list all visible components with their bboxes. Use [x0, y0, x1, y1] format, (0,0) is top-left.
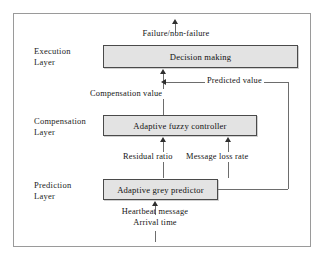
edge-label-residual-ratio: Residual ratio: [121, 152, 175, 162]
edge-label-compensation-value: Compensation value: [88, 89, 164, 99]
layer-label-compensation: Compensation Layer: [34, 116, 86, 137]
input-source-line: [155, 231, 156, 242]
compensation-arrowhead-icon: [160, 69, 166, 74]
predicted-value-return-line: [218, 189, 288, 190]
layer-compensation-line1: Compensation: [34, 116, 86, 126]
node-decision-making[interactable]: Decision making: [103, 45, 298, 68]
predicted-value-vertical-line: [288, 82, 289, 189]
layer-prediction-line1: Prediction: [34, 180, 71, 190]
layer-compensation-line2: Layer: [34, 127, 55, 137]
edge-label-message-loss-rate: Message loss rate: [184, 152, 250, 162]
input-arrowhead-icon: [152, 201, 158, 206]
diagram-canvas: Failure/non-failure Execution Layer Deci…: [0, 0, 324, 262]
edge-label-predicted-value: Predicted value: [205, 76, 264, 86]
layer-execution-line1: Execution: [34, 46, 71, 56]
layer-label-prediction: Prediction Layer: [34, 180, 71, 201]
layer-prediction-line2: Layer: [34, 191, 55, 201]
residual-ratio-arrowhead-icon: [160, 137, 166, 142]
predicted-value-arrowhead-icon: [161, 79, 166, 85]
node-decision-making-label: Decision making: [170, 52, 231, 62]
node-adaptive-fuzzy-controller-label: Adaptive fuzzy controller: [133, 121, 226, 131]
layer-execution-line2: Layer: [34, 57, 55, 67]
edge-label-input-line1: Heartbeat message: [105, 207, 205, 217]
message-loss-rate-arrowhead-icon: [225, 137, 231, 142]
layer-label-execution: Execution Layer: [34, 46, 71, 67]
node-adaptive-grey-predictor-label: Adaptive grey predictor: [117, 185, 204, 195]
node-adaptive-fuzzy-controller[interactable]: Adaptive fuzzy controller: [103, 115, 257, 136]
output-arrowhead-icon: [172, 19, 178, 24]
edge-label-input-line2: Arrival time: [105, 218, 205, 228]
node-adaptive-grey-predictor[interactable]: Adaptive grey predictor: [103, 179, 218, 200]
edge-label-output: Failure/non-failure: [122, 29, 230, 39]
